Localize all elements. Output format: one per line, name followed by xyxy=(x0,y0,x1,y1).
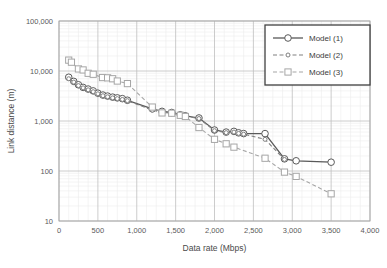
legend-marker-2 xyxy=(286,53,290,57)
series-marker-3 xyxy=(262,155,268,161)
series-marker-2 xyxy=(96,92,100,96)
series-marker-2 xyxy=(224,131,228,135)
series-marker-2 xyxy=(72,80,76,84)
series-marker-3 xyxy=(124,80,130,86)
series-marker-3 xyxy=(196,124,202,130)
x-tick-label: 3,500 xyxy=(322,226,341,235)
series-marker-2 xyxy=(282,157,286,161)
series-marker-2 xyxy=(232,130,236,134)
legend-label-1: Model (1) xyxy=(309,34,343,43)
series-marker-1 xyxy=(262,130,269,137)
legend-label-2: Model (2) xyxy=(309,51,343,60)
series-marker-3 xyxy=(231,144,237,150)
chart-plot-area: 05001,0001,5002,0002,5003,0003,5004,0001… xyxy=(0,0,387,268)
series-marker-3 xyxy=(223,141,229,147)
series-marker-3 xyxy=(328,191,334,197)
x-tick-label: 500 xyxy=(92,226,105,235)
series-marker-2 xyxy=(86,88,90,92)
series-marker-3 xyxy=(149,104,155,110)
series-marker-3 xyxy=(293,173,299,179)
series-marker-2 xyxy=(101,94,105,98)
series-marker-3 xyxy=(68,59,74,65)
series-marker-1 xyxy=(328,159,335,166)
legend-marker-1 xyxy=(285,35,292,42)
series-marker-2 xyxy=(125,99,129,103)
series-marker-2 xyxy=(263,137,267,141)
series-marker-2 xyxy=(197,117,201,121)
series-marker-3 xyxy=(281,169,287,175)
y-tick-label: 100 xyxy=(40,167,53,176)
series-marker-2 xyxy=(111,96,115,100)
series-marker-2 xyxy=(242,132,246,136)
y-tick-label: 10 xyxy=(45,217,53,226)
y-tick-label: 100,000 xyxy=(26,17,53,26)
series-marker-2 xyxy=(115,97,119,101)
series-marker-3 xyxy=(114,78,120,84)
series-marker-3 xyxy=(90,71,96,77)
legend-label-3: Model (3) xyxy=(309,68,343,77)
x-tick-label: 1,500 xyxy=(166,226,185,235)
chart-container: 05001,0001,5002,0002,5003,0003,5004,0001… xyxy=(0,0,387,268)
series-marker-2 xyxy=(76,84,80,88)
series-marker-2 xyxy=(106,95,110,99)
y-tick-label: 1,000 xyxy=(34,117,53,126)
series-marker-3 xyxy=(211,136,217,142)
series-marker-3 xyxy=(169,110,175,116)
series-marker-3 xyxy=(159,110,165,116)
y-axis-title: Link distance (m) xyxy=(6,88,16,153)
series-marker-2 xyxy=(213,129,217,133)
y-tick-label: 10,000 xyxy=(30,67,53,76)
series-marker-2 xyxy=(120,97,124,101)
x-tick-label: 0 xyxy=(57,226,61,235)
series-marker-2 xyxy=(91,90,95,94)
x-tick-label: 2,000 xyxy=(205,226,224,235)
series-marker-2 xyxy=(237,131,241,135)
series-marker-3 xyxy=(182,113,188,119)
series-marker-2 xyxy=(81,86,85,90)
x-tick-label: 2,500 xyxy=(244,226,263,235)
x-tick-label: 4,000 xyxy=(361,226,380,235)
legend-marker-3 xyxy=(285,69,291,75)
series-marker-1 xyxy=(293,157,300,164)
x-tick-label: 1,000 xyxy=(127,226,146,235)
x-axis-title: Data rate (Mbps) xyxy=(183,243,247,253)
x-tick-label: 3,000 xyxy=(283,226,302,235)
series-marker-2 xyxy=(67,77,71,81)
